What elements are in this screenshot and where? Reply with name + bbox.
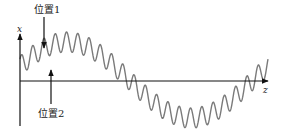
- z-axis-label: z: [262, 85, 268, 95]
- wave-diagram: z x 位置1 位置2: [0, 0, 285, 130]
- x-axis-label: x: [17, 24, 22, 34]
- position-1-label: 位置1: [34, 3, 60, 15]
- position-2-label: 位置2: [38, 107, 64, 119]
